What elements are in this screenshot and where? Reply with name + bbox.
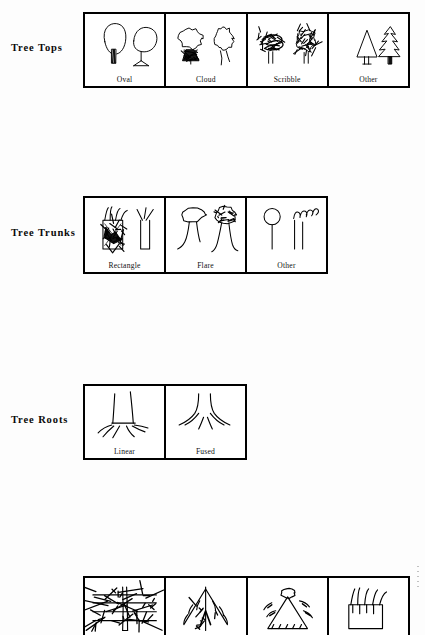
cell-caption: Linear <box>85 447 164 459</box>
cell-caption: Oval <box>85 75 164 87</box>
figure-sheet: Tree TopsOvalCloudScribbleOtherTree Trun… <box>0 0 425 635</box>
sketch-top-scribble <box>248 14 327 75</box>
sketch-top-oval <box>85 14 164 75</box>
cell-caption: Fused <box>166 447 245 459</box>
cell-caption: Scribble <box>248 75 327 87</box>
taxonomy-row-tree-branches: Tree BranchesHorizontalDownwardUpwardLin… <box>0 288 425 444</box>
taxonomy-row-tree-tops: Tree TopsOvalCloudScribbleOther <box>0 6 425 82</box>
taxonomy-row-leaves: LeavesIndividualNo Individual <box>0 558 425 632</box>
category-cell-top-cloud[interactable]: Cloud <box>164 14 245 86</box>
category-cell-top-oval[interactable]: Oval <box>85 14 164 86</box>
category-cell-top-other[interactable]: Other <box>327 14 408 86</box>
cell-caption: Other <box>329 75 408 87</box>
taxonomy-row-apples: ApplesFloatingStemmedClustered <box>0 462 425 538</box>
category-cell-top-scribble[interactable]: Scribble <box>246 14 327 86</box>
grid-line: OvalCloudScribbleOther <box>85 14 408 86</box>
row-label-tree-tops: Tree Tops <box>11 42 63 55</box>
taxonomy-row-tree-roots: Tree RootsLinearFused <box>0 192 425 268</box>
sketch-top-other <box>329 14 408 75</box>
category-grid-tree-tops: OvalCloudScribbleOther <box>83 12 410 88</box>
taxonomy-row-tree-trunks: Tree TrunksRectangleFlareOther <box>0 98 425 176</box>
cell-caption: Cloud <box>166 75 245 87</box>
sketch-top-cloud <box>166 14 245 75</box>
scan-artifact-marks <box>417 566 423 600</box>
